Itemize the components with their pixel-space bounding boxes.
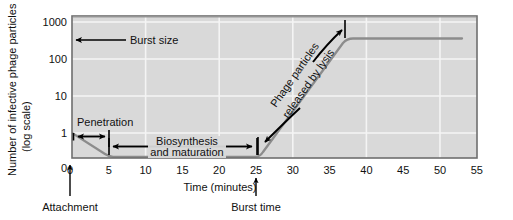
y-tick-10: 10 (55, 90, 67, 102)
y-tick-1000: 1000 (43, 16, 67, 28)
x-tick-35: 35 (323, 164, 335, 176)
x-tick-30: 30 (287, 164, 299, 176)
biosynthesis-label-line2: and maturation (150, 146, 223, 158)
x-tick-25: 25 (250, 164, 262, 176)
x-tick-55: 55 (471, 164, 483, 176)
x-tick-45: 45 (397, 164, 409, 176)
burst-size-label: Burst size (130, 34, 178, 46)
x-tick-10: 10 (139, 164, 151, 176)
y-axis-title-line1: Number of infective phage particles (6, 3, 18, 176)
y-tick-1: 1 (61, 127, 67, 139)
chart-svg: 1000 100 10 1 0 Number of infective phag… (0, 0, 513, 220)
x-tick-20: 20 (213, 164, 225, 176)
one-step-growth-curve-figure: 1000 100 10 1 0 Number of infective phag… (0, 0, 513, 220)
y-tick-100: 100 (49, 53, 67, 65)
x-tick-40: 40 (360, 164, 372, 176)
x-axis-title: Time (minutes) (184, 181, 257, 193)
x-tick-15: 15 (176, 164, 188, 176)
penetration-label: Penetration (77, 116, 133, 128)
attachment-label: Attachment (42, 201, 98, 213)
y-axis-title-line2: (log scale) (20, 101, 32, 152)
x-tick-50: 50 (434, 164, 446, 176)
x-tick-5: 5 (106, 164, 112, 176)
burst-time-label: Burst time (231, 201, 281, 213)
